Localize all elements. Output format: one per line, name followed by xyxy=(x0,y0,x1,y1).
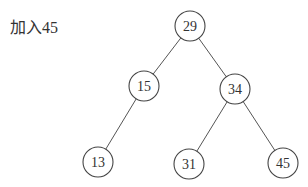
tree-edge-n29-n34 xyxy=(199,38,227,77)
node-value: 29 xyxy=(183,19,197,34)
node-value: 45 xyxy=(276,156,290,171)
tree-edge-n29-n15 xyxy=(153,38,181,74)
tree-node-45: 45 xyxy=(268,148,298,178)
tree-node-29: 29 xyxy=(175,11,205,41)
tree-node-31: 31 xyxy=(174,149,204,179)
tree-edge-n34-n45 xyxy=(243,102,275,151)
tree-node-15: 15 xyxy=(129,71,159,101)
tree-node-13: 13 xyxy=(83,147,113,177)
tree-node-34: 34 xyxy=(220,74,250,104)
tree-nodes: 291534133145 xyxy=(83,11,298,179)
tree-edge-n34-n31 xyxy=(197,102,227,151)
node-value: 15 xyxy=(137,79,151,94)
node-value: 31 xyxy=(182,157,196,172)
node-value: 34 xyxy=(228,82,242,97)
tree-edge-n15-n13 xyxy=(106,99,136,149)
binary-tree-diagram: 291534133145 xyxy=(0,0,308,187)
node-value: 13 xyxy=(91,155,105,170)
